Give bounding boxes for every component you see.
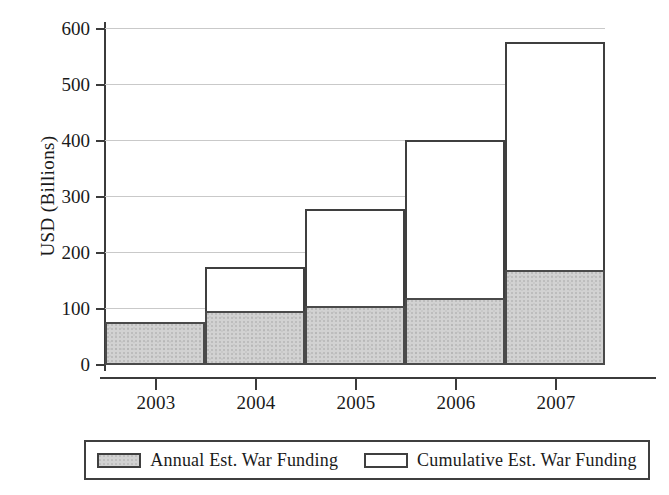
- bar-chart-figure: USD (Billions) 600 500 400 300 200 100 0: [0, 0, 669, 495]
- legend-label-annual: Annual Est. War Funding: [150, 450, 338, 471]
- bar-annual-2005: [305, 306, 405, 365]
- x-tick-label-2004: 2004: [211, 392, 301, 414]
- chart-legend: Annual Est. War Funding Cumulative Est. …: [84, 440, 650, 480]
- y-tick-label-100: 100: [34, 299, 90, 318]
- y-axis-tick-labels: 600 500 400 300 200 100 0: [28, 0, 90, 400]
- x-tick-label-2005: 2005: [311, 392, 401, 414]
- legend-entry-cumulative: Cumulative Est. War Funding: [364, 450, 637, 471]
- y-tick-label-500: 500: [34, 75, 90, 94]
- bar-annual-2006: [405, 298, 505, 365]
- plot-area: [105, 28, 605, 365]
- hollow-white-rect-icon: [364, 453, 408, 468]
- y-tick-label-200: 200: [34, 243, 90, 262]
- x-tick-mark-2003: [155, 379, 157, 390]
- bar-annual-2004: [205, 311, 305, 365]
- x-tick-mark-2006: [455, 379, 457, 390]
- legend-label-cumulative: Cumulative Est. War Funding: [417, 450, 637, 471]
- x-tick-label-2003: 2003: [111, 392, 201, 414]
- x-tick-label-2006: 2006: [411, 392, 501, 414]
- x-tick-mark-2004: [255, 379, 257, 390]
- filled-gray-rect-icon: [97, 453, 141, 468]
- y-tick-label-300: 300: [34, 187, 90, 206]
- y-tick-label-400: 400: [34, 131, 90, 150]
- x-tick-mark-2007: [555, 379, 557, 390]
- x-tick-label-2007: 2007: [511, 392, 601, 414]
- legend-entry-annual: Annual Est. War Funding: [97, 450, 338, 471]
- y-tick-label-0: 0: [34, 355, 90, 374]
- x-tick-mark-2005: [355, 379, 357, 390]
- bar-annual-2007: [505, 270, 605, 365]
- bar-annual-2003: [105, 322, 205, 365]
- gridline-600: [105, 28, 605, 29]
- x-axis-line: [100, 377, 656, 379]
- y-tick-label-600: 600: [34, 19, 90, 38]
